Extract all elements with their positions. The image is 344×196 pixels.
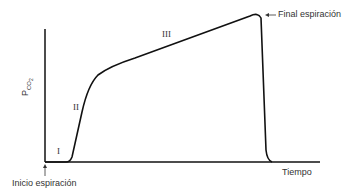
phase-label-ii: II [73,102,79,112]
phase-label-iii: III [162,29,171,39]
start-annotation: Inicio espiración [12,178,77,188]
y-axis-label: PCO2 [20,78,34,96]
co2-curve [45,14,272,162]
end-arrow-head [265,13,269,17]
end-annotation: Final espiración [278,9,341,19]
phase-label-i: I [57,146,60,156]
x-axis-label: Tiempo [282,167,312,177]
start-arrow-head [43,164,47,168]
